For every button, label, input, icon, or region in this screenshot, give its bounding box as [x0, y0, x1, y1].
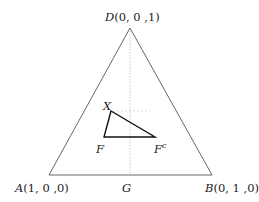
- label-a: A(1, 0 ,0): [14, 181, 69, 195]
- inner-triangle: [104, 111, 155, 137]
- label-g: G: [122, 181, 131, 195]
- label-fc: Fc: [153, 141, 167, 156]
- label-x: X: [102, 99, 112, 113]
- simplex-diagram: D(0, 0 ,1) A(1, 0 ,0) B(0, 1 ,0) G X F F…: [0, 0, 259, 202]
- label-b: B(0, 1 ,0): [204, 181, 259, 195]
- label-f: F: [95, 142, 105, 156]
- outer-triangle: [49, 28, 212, 175]
- label-d: D(0, 0 ,1): [104, 10, 160, 24]
